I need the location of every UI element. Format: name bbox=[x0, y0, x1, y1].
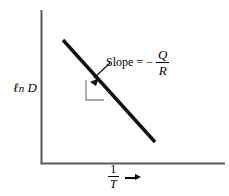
y-axis-label-n: n bbox=[19, 82, 25, 94]
arrhenius-plot-figure: ℓn D 1 T Slope = − Q R bbox=[0, 0, 229, 196]
slope-annotation-minus: − bbox=[146, 55, 153, 70]
slope-annotation-denominator: R bbox=[157, 63, 169, 77]
x-axis-label-denominator: T bbox=[108, 177, 119, 190]
right-arrow-icon bbox=[125, 174, 141, 181]
x-axis-label-numerator: 1 bbox=[108, 163, 118, 176]
arrow-head bbox=[135, 174, 141, 180]
slope-annotation-numerator: Q bbox=[156, 48, 169, 62]
x-axis-label-fraction: 1 T bbox=[108, 163, 119, 190]
y-axis-label-d: D bbox=[27, 80, 36, 95]
pointer-head bbox=[90, 78, 99, 86]
x-axis-label: 1 T bbox=[108, 163, 141, 190]
slope-annotation-equals: = bbox=[136, 55, 143, 70]
slope-annotation-label: Slope bbox=[106, 55, 133, 70]
slope-annotation: Slope = − Q R bbox=[106, 48, 169, 77]
slope-annotation-fraction: Q R bbox=[156, 48, 169, 77]
y-axis-label: ℓn D bbox=[10, 80, 40, 96]
